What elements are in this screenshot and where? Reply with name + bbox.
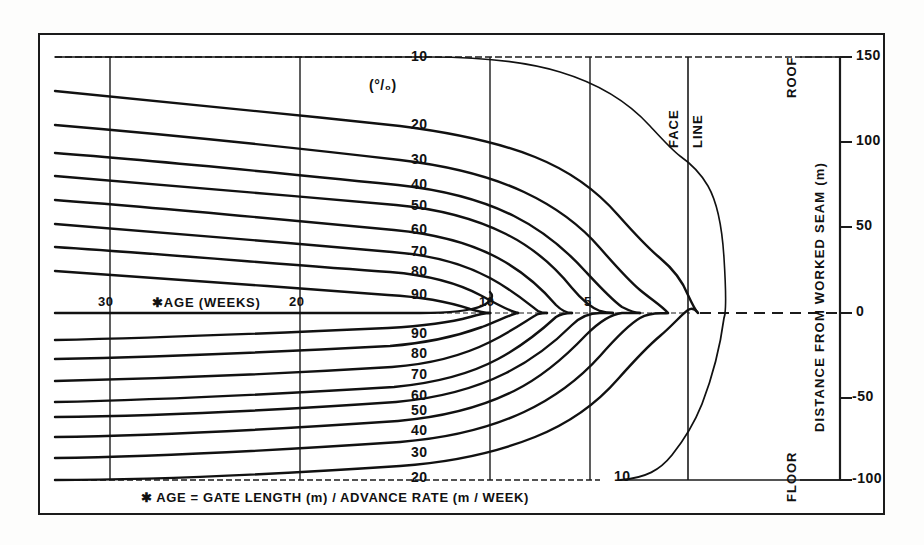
floor-label: FLOOR [784, 452, 799, 503]
x-tick-label-20: 20 [289, 294, 304, 309]
unit-percent-label: (°/₀) [369, 77, 397, 93]
lower-contours [55, 292, 725, 480]
x-axis-title: ✱AGE (WEEKS) [152, 295, 261, 310]
contour-upper-20 [55, 91, 698, 313]
y-tick-label--50: -50 [852, 388, 874, 404]
contour-label-upper-30: 30 [411, 151, 428, 167]
contour-label-upper-80: 80 [411, 263, 428, 279]
contour-label-lower-70: 70 [411, 366, 428, 382]
contour-label-bottom-10: 10 [614, 468, 631, 484]
y-tick-label-100: 100 [856, 132, 881, 148]
contour-lower-20 [55, 309, 698, 480]
contour-label-lower-40: 40 [411, 422, 428, 438]
y-tick-label-50: 50 [856, 217, 873, 233]
y-tick-label--100: -100 [852, 470, 882, 486]
contour-label-upper-70: 70 [411, 243, 428, 259]
y-tick-label-150: 150 [856, 47, 881, 63]
contour-label-lower-20: 20 [411, 469, 428, 485]
contour-lower-80 [55, 313, 518, 359]
x-tick-label-30: 30 [98, 294, 113, 309]
contour-label-lower-30: 30 [411, 444, 428, 460]
figure-canvas: (°/₀) 10 20 30 40 50 60 70 80 90 90 80 7… [0, 0, 924, 545]
contour-label-lower-50: 50 [411, 402, 428, 418]
x-tick-label-10: 10 [479, 294, 494, 309]
y-axis [840, 57, 852, 480]
contour-lower-50 [55, 313, 613, 417]
y-tick-label-0: 0 [856, 303, 864, 319]
contour-label-upper-10: 10 [411, 48, 428, 64]
upper-contours [55, 57, 726, 313]
contour-upper-40 [55, 153, 640, 313]
face-label: FACE [666, 109, 681, 148]
contour-label-upper-20: 20 [411, 116, 428, 132]
y-axis-title: DISTANCE FROM WORKED SEAM (m) [812, 162, 827, 432]
contour-lower-40 [55, 313, 640, 437]
contour-label-upper-60: 60 [411, 221, 428, 237]
contour-lower-10 [620, 313, 725, 480]
contour-label-upper-40: 40 [411, 176, 428, 192]
contour-label-lower-80: 80 [411, 345, 428, 361]
contour-label-lower-60: 60 [411, 387, 428, 403]
contour-upper-50 [55, 176, 613, 313]
line-label: LINE [690, 114, 705, 148]
contour-label-lower-90: 90 [411, 325, 428, 341]
contour-lower-30 [55, 313, 668, 458]
footnote-text: ✱ AGE = GATE LENGTH (m) / ADVANCE RATE (… [141, 490, 529, 505]
contour-label-upper-90: 90 [411, 286, 428, 302]
contour-label-upper-50: 50 [411, 197, 428, 213]
contour-upper-30 [55, 125, 668, 313]
x-tick-label-5: 5 [584, 294, 592, 309]
roof-label: ROOF [784, 56, 799, 98]
